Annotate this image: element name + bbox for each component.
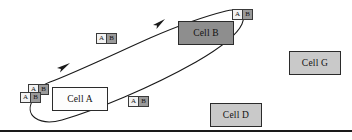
- cell-box-cell-a[interactable]: Cell A: [52, 87, 108, 111]
- agent-token-b[interactable]: B: [242, 9, 253, 20]
- agent-token-b[interactable]: B: [138, 96, 149, 107]
- cell-label: Cell B: [193, 28, 219, 38]
- cell-box-cell-b[interactable]: Cell B: [178, 21, 234, 45]
- token-pair-upper-left[interactable]: A B: [96, 33, 117, 44]
- cell-box-cell-g[interactable]: Cell G: [289, 51, 341, 75]
- arrow-upper-right-icon: [153, 19, 165, 29]
- agent-token-b[interactable]: B: [106, 33, 117, 44]
- diagram-canvas: Cell A Cell B Cell G Cell D A B A B A B …: [0, 0, 352, 140]
- token-pair-top-right[interactable]: A B: [232, 9, 253, 20]
- cell-label: Cell D: [223, 110, 249, 120]
- token-pair-cell-a-lower[interactable]: A B: [20, 92, 41, 103]
- baseline-rule: [0, 130, 352, 132]
- token-pair-bottom-middle[interactable]: A B: [128, 96, 149, 107]
- cell-label: Cell A: [67, 94, 93, 104]
- cell-label: Cell G: [302, 58, 328, 68]
- agent-token-b[interactable]: B: [30, 92, 41, 103]
- arrow-lower-left-icon: [57, 63, 70, 73]
- cell-box-cell-d[interactable]: Cell D: [210, 103, 262, 127]
